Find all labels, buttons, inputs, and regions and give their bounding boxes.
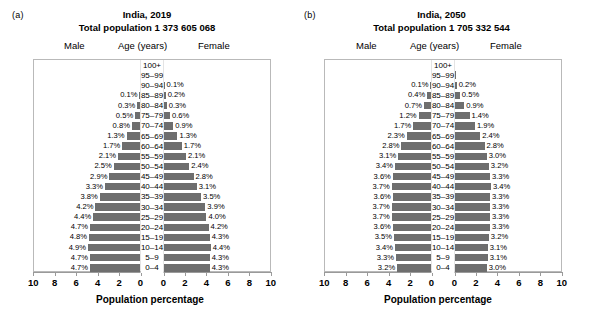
x-axis-tick-label: 8 (52, 277, 57, 288)
male-bar-group: 3.8% (80, 192, 140, 202)
x-axis-tick (562, 272, 563, 276)
x-axis-tick (389, 272, 390, 276)
pyramid-row: 4.9%4.4%10–14 (34, 243, 270, 253)
pyramid-row: 3.5%3.2%15–19 (325, 232, 561, 242)
female-value-label: 4.2% (211, 223, 228, 231)
panel-a-subtitle: Total population 1 373 605 068 (0, 22, 294, 35)
panel-b-title: India, 2050 (294, 9, 589, 22)
female-value-label: 2.4% (191, 162, 208, 170)
pyramid-row: 95–99 (34, 70, 270, 80)
male-bar-group: 4.2% (76, 202, 140, 212)
male-bar-group: 3.6% (374, 192, 432, 202)
male-bar-group: 3.6% (374, 172, 432, 182)
age-group-band: 55–59 (141, 151, 164, 161)
age-group-band: 50–54 (141, 161, 164, 171)
x-axis-tick (324, 272, 325, 276)
female-bar-group: 0.2% (455, 80, 476, 90)
age-group-band: 30–34 (141, 202, 164, 212)
panel-a-x-axis-label: Population percentage (6, 294, 294, 305)
x-axis-tick-label: 10 (28, 277, 39, 288)
female-bar (455, 112, 470, 119)
female-bar-group: 0.1% (164, 80, 184, 90)
female-bar-group: 2.4% (164, 161, 209, 171)
pyramid-row: 1.2%1.4%75–79 (325, 111, 561, 121)
pyramid-row: 3.6%3.3%45–49 (325, 172, 561, 182)
female-bar-group: 3.0% (455, 151, 507, 161)
pyramid-row: 95–99 (325, 70, 561, 80)
age-group-label: 15–19 (432, 233, 454, 242)
panel-b-legend-age: Age (years) (410, 40, 459, 54)
male-bar (392, 213, 432, 220)
age-group-label: 85–89 (141, 91, 163, 100)
male-value-label: 2.5% (94, 162, 111, 170)
x-axis-tick-label: 2 (473, 277, 478, 288)
female-value-label: 3.9% (207, 203, 224, 211)
female-value-label: 0.6% (172, 112, 189, 120)
x-axis-tick (249, 272, 250, 276)
female-value-label: 1.7% (184, 142, 201, 150)
female-value-label: 0.9% (466, 102, 483, 110)
x-axis-tick (497, 272, 498, 276)
male-value-label: 2.8% (382, 142, 399, 150)
pyramid-row: 3.8%3.5%35–39 (34, 192, 270, 202)
male-value-label: 3.7% (373, 203, 390, 211)
x-axis-tick (119, 272, 120, 276)
female-bar (455, 102, 465, 109)
age-group-label: 10–14 (432, 243, 454, 252)
male-bar-group: 0.5% (116, 111, 141, 121)
female-bar (164, 132, 178, 139)
female-value-label: 3.2% (491, 233, 508, 241)
male-bar (90, 264, 140, 271)
x-axis-tick-label: 2 (116, 277, 121, 288)
age-group-label: 50–54 (432, 162, 454, 171)
female-value-label: 3.3% (492, 213, 509, 221)
male-bar (393, 224, 432, 231)
age-group-band: 85–89 (432, 90, 455, 100)
age-group-band: 60–64 (432, 141, 455, 151)
male-value-label: 4.7% (71, 223, 88, 231)
age-group-band: 10–14 (432, 243, 455, 253)
female-value-label: 1.3% (179, 132, 196, 140)
female-value-label: 4.3% (212, 264, 229, 272)
x-axis-tick (410, 272, 411, 276)
female-value-label: 4.3% (212, 254, 229, 262)
female-value-label: 4.0% (208, 213, 225, 221)
pyramid-row: 1.3%1.3%65–69 (34, 131, 270, 141)
age-group-label: 5–9 (436, 253, 449, 262)
age-group-band: 45–49 (141, 172, 164, 182)
female-value-label: 3.1% (199, 183, 216, 191)
age-group-band: 25–29 (432, 212, 455, 222)
male-bar (90, 224, 140, 231)
age-group-band: 40–44 (141, 182, 164, 192)
female-bar (455, 132, 481, 139)
female-bar-group: 4.3% (164, 253, 229, 263)
age-group-label: 80–84 (141, 101, 163, 110)
pyramid-row: 3.4%3.1%10–14 (325, 243, 561, 253)
male-value-label: 4.8% (70, 233, 87, 241)
age-group-label: 80–84 (432, 101, 454, 110)
age-group-label: 60–64 (432, 142, 454, 151)
female-bar-group: 3.5% (164, 192, 221, 202)
x-axis-tick (55, 272, 56, 276)
male-bar-group: 4.9% (69, 243, 141, 253)
x-axis-tick-label: 10 (319, 277, 330, 288)
female-value-label: 3.2% (491, 162, 508, 170)
age-group-label: 70–74 (141, 121, 163, 130)
male-bar (398, 153, 431, 160)
pyramid-row: 3.6%3.3%20–24 (325, 222, 561, 232)
pyramid-row: 2.3%2.4%65–69 (325, 131, 561, 141)
male-bar (100, 193, 141, 200)
male-value-label: 3.2% (378, 264, 395, 272)
male-value-label: 2.3% (388, 132, 405, 140)
x-axis-tick-label: 8 (343, 277, 348, 288)
male-value-label: 4.7% (71, 254, 88, 262)
x-axis-tick-label: 4 (495, 277, 500, 288)
female-value-label: 2.1% (188, 152, 205, 160)
x-axis-tick (33, 272, 34, 276)
female-bar-group: 3.9% (164, 202, 225, 212)
age-group-band: 25–29 (141, 212, 164, 222)
male-bar-group: 0.4% (408, 90, 432, 100)
population-pyramid-figure: (a) India, 2019 Total population 1 373 6… (0, 0, 589, 317)
female-bar-group: 3.3% (455, 192, 510, 202)
pyramid-row: 0.1%0.2%85–89 (34, 90, 270, 100)
